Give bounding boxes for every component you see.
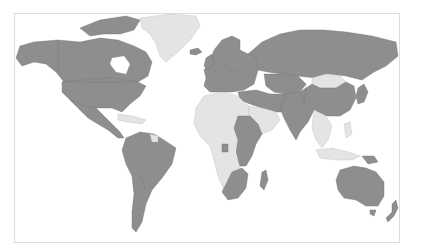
region-indonesia[interactable]	[316, 148, 360, 160]
region-new-zealand[interactable]	[386, 200, 398, 222]
region-australia[interactable]	[336, 166, 384, 206]
region-japan-korea[interactable]	[356, 84, 368, 104]
region-greenland[interactable]	[140, 14, 200, 62]
region-canada-arctic[interactable]	[80, 16, 140, 36]
region-philippines[interactable]	[344, 122, 352, 138]
region-central-asia[interactable]	[264, 74, 306, 94]
region-tasmania[interactable]	[370, 210, 376, 216]
region-madagascar[interactable]	[260, 170, 268, 190]
region-iceland[interactable]	[190, 48, 202, 55]
region-canada[interactable]	[16, 38, 152, 82]
region-south-america[interactable]	[122, 132, 176, 232]
world-map[interactable]	[0, 0, 426, 252]
region-russia[interactable]	[248, 30, 398, 80]
region-gabon[interactable]	[222, 144, 228, 152]
region-papua-new-guinea[interactable]	[362, 156, 378, 164]
region-caribbean[interactable]	[118, 114, 146, 124]
region-united-states[interactable]	[62, 78, 146, 112]
